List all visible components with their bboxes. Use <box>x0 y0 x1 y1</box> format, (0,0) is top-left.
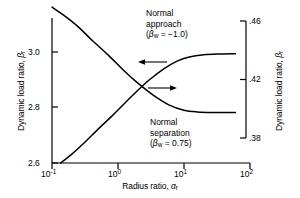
ylabel-right-subscript: r <box>277 51 284 53</box>
right-axis <box>240 21 246 138</box>
annotation-approach-line2: approach <box>146 19 188 30</box>
ylabel-left-symbol: β <box>16 53 26 58</box>
left-axis <box>52 18 58 163</box>
annotation-separation-line3: (βw = 0.75) <box>150 138 191 151</box>
bottom-axis <box>52 163 250 169</box>
y-axis-label-left: Dynamic load ratio, βr <box>16 26 26 156</box>
ylabel-left-subscript: r <box>19 51 26 53</box>
xlabel-text: Radius ratio, <box>122 181 171 191</box>
annotation-separation-line2: separation <box>150 128 191 139</box>
ylabel-right-symbol: β <box>274 53 284 58</box>
annotation-normal-approach: Normal approach (βw = −1.0) <box>146 8 188 42</box>
ylabel-right-text: Dynamic load ratio, <box>274 58 284 131</box>
arrow-to-left-axis <box>138 59 167 65</box>
xtick-label-2: 101 <box>174 168 187 179</box>
curve-normal-approach <box>61 54 236 163</box>
ytick-label-left-0: 3.0 <box>28 47 40 57</box>
xtick-label-3: 102 <box>240 168 253 179</box>
annotation-approach-line1: Normal <box>146 8 188 19</box>
xlabel-subscript: r <box>176 184 178 191</box>
annotation-separation-line1: Normal <box>150 117 191 128</box>
arrow-to-right-axis <box>148 85 177 91</box>
annotation-normal-separation: Normal separation (βw = 0.75) <box>150 117 191 151</box>
ytick-label-left-2: 2.6 <box>28 158 40 168</box>
annotation-approach-line3: (βw = −1.0) <box>146 29 188 42</box>
y-axis-label-right: Dynamic load ratio, βr <box>274 26 284 156</box>
ylabel-left-text: Dynamic load ratio, <box>16 58 26 131</box>
ytick-label-left-1: 2.8 <box>28 102 40 112</box>
xtick-label-1: 100 <box>108 168 121 179</box>
ytick-label-right-2: .38 <box>249 133 261 143</box>
xtick-label-0: 10-1 <box>41 168 56 179</box>
ytick-label-right-1: .42 <box>249 74 261 84</box>
ytick-label-right-0: .46 <box>249 16 261 26</box>
x-axis-label: Radius ratio, αr <box>50 181 250 191</box>
